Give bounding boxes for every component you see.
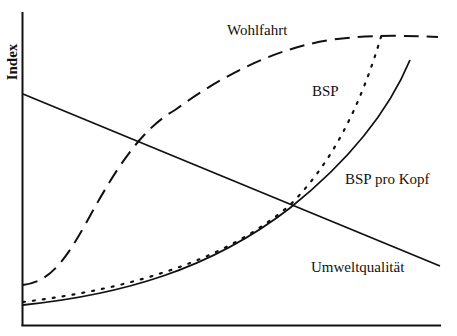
y-axis-title: Index (4, 43, 20, 80)
label-umweltqualitaet: Umweltqualität (311, 259, 405, 275)
chart-canvas: Index Wohlfahrt BSP BSP pro Kopf Umweltq… (0, 0, 457, 336)
label-bsp-pro-kopf: BSP pro Kopf (345, 171, 429, 187)
label-wohlfahrt: Wohlfahrt (227, 22, 288, 38)
label-bsp: BSP (312, 83, 339, 99)
